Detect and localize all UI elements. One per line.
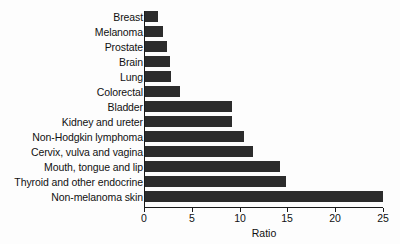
category-label-cervix-vulva-and-vagina: Cervix, vulva and vagina	[31, 147, 143, 157]
category-label-brain: Brain	[119, 57, 143, 67]
category-label-non-hodgkin-lymphoma: Non-Hodgkin lymphoma	[32, 132, 143, 142]
category-label-mouth-tongue-and-lip: Mouth, tongue and lip	[44, 162, 143, 172]
x-tick-label-10: 10	[234, 213, 246, 224]
category-label-non-melanoma-skin: Non-melanoma skin	[51, 192, 143, 202]
category-label-kidney-and-ureter: Kidney and ureter	[62, 117, 143, 127]
bar-bladder	[145, 101, 232, 112]
x-tick-label-15: 15	[281, 213, 293, 224]
bar-colorectal	[145, 86, 180, 97]
x-axis-line	[144, 207, 383, 208]
x-axis-title-text: Ratio	[252, 227, 277, 239]
bar-cervix-vulva-and-vagina	[145, 146, 253, 157]
x-axis-title: Ratio	[0, 227, 400, 239]
bar-breast	[145, 11, 158, 22]
bar-non-melanoma-skin	[145, 191, 383, 202]
category-label-thyroid-and-other-endocrine: Thyroid and other endocrine	[14, 177, 143, 187]
category-label-breast: Breast	[113, 12, 143, 22]
x-tick-label-25: 25	[377, 213, 389, 224]
category-label-bladder: Bladder	[108, 102, 144, 112]
bar-prostate	[145, 41, 167, 52]
bar-thyroid-and-other-endocrine	[145, 176, 286, 187]
category-label-colorectal: Colorectal	[97, 87, 143, 97]
chart-screenshot: Breast Melanoma Prostate Brain Lung Colo…	[0, 0, 400, 244]
bar-chart-plot-area: Breast Melanoma Prostate Brain Lung Colo…	[0, 0, 400, 244]
category-label-melanoma: Melanoma	[95, 27, 143, 37]
x-tick-label-20: 20	[329, 213, 341, 224]
bar-kidney-and-ureter	[145, 116, 232, 127]
bar-melanoma	[145, 26, 163, 37]
x-tick-label-5: 5	[189, 213, 195, 224]
y-axis-line	[144, 11, 145, 207]
category-label-prostate: Prostate	[105, 42, 143, 52]
bar-mouth-tongue-and-lip	[145, 161, 280, 172]
category-label-lung: Lung	[120, 72, 143, 82]
x-tick-label-0: 0	[141, 213, 147, 224]
bar-lung	[145, 71, 171, 82]
bar-non-hodgkin-lymphoma	[145, 131, 244, 142]
bar-brain	[145, 56, 170, 67]
